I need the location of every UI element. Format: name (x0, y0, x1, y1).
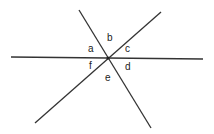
angle-label-c: c (125, 44, 130, 54)
angle-label-e: e (105, 73, 111, 83)
angle-label-a: a (88, 44, 94, 54)
angle-label-f: f (89, 61, 92, 71)
rising-line (35, 12, 161, 123)
angle-label-d: d (125, 62, 131, 72)
lines-canvas (0, 0, 214, 134)
angle-diagram: a b c d e f (0, 0, 214, 134)
intersection-point (107, 57, 110, 60)
angle-label-b: b (107, 33, 113, 43)
